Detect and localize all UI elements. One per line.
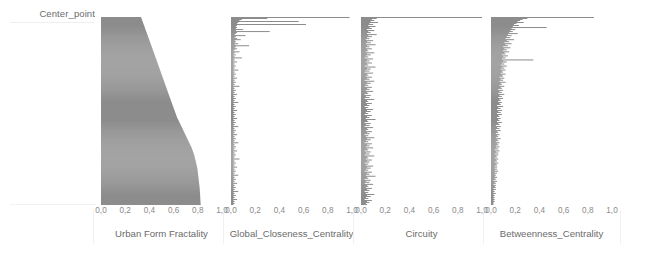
bar (361, 126, 365, 127)
bar (101, 196, 200, 197)
bar (231, 152, 233, 153)
bar (101, 140, 188, 141)
bar (101, 131, 184, 132)
bars-group (491, 17, 612, 205)
bar (231, 157, 235, 158)
bar (101, 46, 152, 47)
bar (491, 47, 510, 48)
bar (231, 39, 241, 40)
bar (231, 131, 233, 132)
bar (361, 91, 373, 92)
bar (101, 174, 198, 175)
bar (231, 28, 236, 29)
bar (231, 35, 246, 36)
bar (101, 170, 198, 171)
bar (361, 148, 373, 149)
bar (101, 22, 143, 23)
bar (231, 173, 235, 174)
bar (101, 95, 169, 96)
bar (491, 70, 506, 71)
bar (361, 63, 372, 64)
bar (231, 204, 233, 205)
bar (231, 69, 233, 70)
bar (491, 114, 502, 115)
bar (231, 44, 235, 45)
bar (361, 103, 372, 104)
bar (361, 132, 367, 133)
bar (491, 105, 497, 106)
bar (101, 81, 164, 82)
bar (491, 104, 501, 105)
bar (491, 44, 506, 45)
bar (491, 155, 498, 156)
bar (361, 143, 372, 144)
bar (361, 48, 372, 49)
bar (231, 66, 236, 67)
chart-panel-1 (101, 17, 222, 205)
bar (491, 95, 499, 96)
bar (491, 140, 498, 141)
panel-separator (223, 210, 224, 244)
bar (231, 17, 350, 18)
bar (361, 86, 365, 87)
bar (361, 75, 368, 76)
bar (101, 126, 181, 127)
bar (231, 85, 233, 86)
bar (491, 145, 496, 146)
bar (491, 192, 493, 193)
bar (491, 45, 508, 46)
bar (491, 91, 499, 92)
bar (361, 202, 369, 203)
bar (231, 193, 235, 194)
bar (231, 79, 233, 80)
x-tick-label: 0,8 (322, 206, 333, 215)
bar (231, 127, 233, 128)
bar (361, 153, 366, 154)
bar (231, 122, 236, 123)
bar (101, 132, 184, 133)
bar (361, 81, 374, 82)
bar (491, 139, 497, 140)
bar (101, 134, 185, 135)
bar (361, 101, 368, 102)
bar (361, 184, 373, 185)
bar (361, 145, 369, 146)
bar (101, 190, 200, 191)
bar (231, 86, 239, 87)
bar (491, 80, 503, 81)
bar (361, 117, 369, 118)
bar (101, 201, 200, 202)
bar (491, 178, 495, 179)
bar (231, 158, 233, 159)
bar (231, 134, 237, 135)
bar (231, 90, 236, 91)
plot-area (231, 17, 352, 205)
bar (231, 145, 233, 146)
bar (361, 137, 374, 138)
bar (231, 117, 233, 118)
bar (231, 20, 239, 21)
bar (491, 29, 515, 30)
x-axis-title-4: Betweenness_Centrality (475, 228, 628, 239)
bar (361, 198, 368, 199)
bar (231, 51, 239, 52)
bar (101, 63, 158, 64)
plot-area (491, 17, 612, 205)
bar (101, 31, 146, 32)
bar (231, 112, 235, 113)
bar (101, 113, 176, 114)
bar (491, 97, 498, 98)
bar (101, 129, 183, 130)
bar (491, 96, 502, 97)
bar (101, 123, 180, 124)
bar (101, 98, 170, 99)
bar (101, 23, 143, 24)
bar (101, 192, 200, 193)
bar (491, 194, 493, 195)
bar (491, 79, 501, 80)
bar (361, 80, 365, 81)
bar (361, 120, 367, 121)
bar (361, 180, 371, 181)
bar (231, 132, 235, 133)
bar (101, 92, 168, 93)
